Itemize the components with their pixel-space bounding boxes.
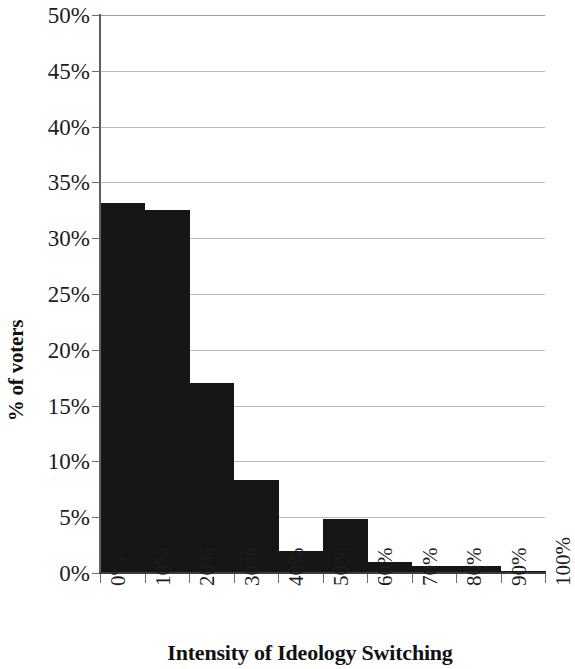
x-axis-title: Intensity of Ideology Switching (100, 640, 520, 666)
y-axis-tick-label: 15% (14, 394, 90, 417)
y-axis-tick-label: 30% (14, 227, 90, 250)
x-axis-tick-mark (501, 574, 502, 583)
x-axis-tick-label-text: 50% (331, 548, 352, 587)
x-axis-tick-mark (456, 574, 457, 583)
x-axis-tick-mark (234, 574, 235, 583)
x-axis-tick-label-text: 30% (242, 548, 263, 587)
y-axis-tick-label: 10% (14, 450, 90, 473)
bar-series (100, 15, 545, 573)
y-axis-tick-label: 45% (14, 59, 90, 82)
y-axis-tick-label: 50% (14, 4, 90, 27)
x-axis-tick-mark (367, 574, 368, 583)
bar (189, 383, 234, 573)
x-axis-tick-mark (278, 574, 279, 583)
x-axis-tick-label-text: 0% (108, 558, 129, 586)
x-axis-tick-label-text: 90% (509, 548, 530, 587)
x-axis-tick-label-text: 20% (197, 548, 218, 587)
x-axis-tick-label-text: 60% (375, 548, 396, 587)
bar (100, 203, 145, 574)
x-axis-tick-label-text: 70% (420, 548, 441, 587)
y-axis-tick-label: 5% (14, 506, 90, 529)
y-axis-tick-label: 35% (14, 171, 90, 194)
y-axis-tick-label: 20% (14, 338, 90, 361)
x-axis-tick-mark (323, 574, 324, 583)
x-axis-tick-mark (545, 574, 546, 583)
x-axis-tick-label-text: 40% (286, 548, 307, 587)
x-axis-tick-mark (412, 574, 413, 583)
x-axis-tick-label-text: 100% (553, 537, 574, 586)
x-axis-tick-mark (100, 574, 101, 583)
x-axis-tick-label-text: 10% (153, 548, 174, 587)
x-axis-tick-mark (189, 574, 190, 583)
bar (145, 210, 190, 573)
y-axis-line (99, 14, 101, 574)
y-axis-tick-label: 40% (14, 115, 90, 138)
y-axis-tick-label: 0% (14, 562, 90, 585)
y-axis-tick-labels: 0%5%10%15%20%25%30%35%40%45%50% (14, 0, 90, 600)
y-axis-tick-label: 25% (14, 283, 90, 306)
x-axis-tick-label-text: 80% (464, 548, 485, 587)
plot-area (100, 15, 545, 573)
x-axis-tick-mark (145, 574, 146, 583)
